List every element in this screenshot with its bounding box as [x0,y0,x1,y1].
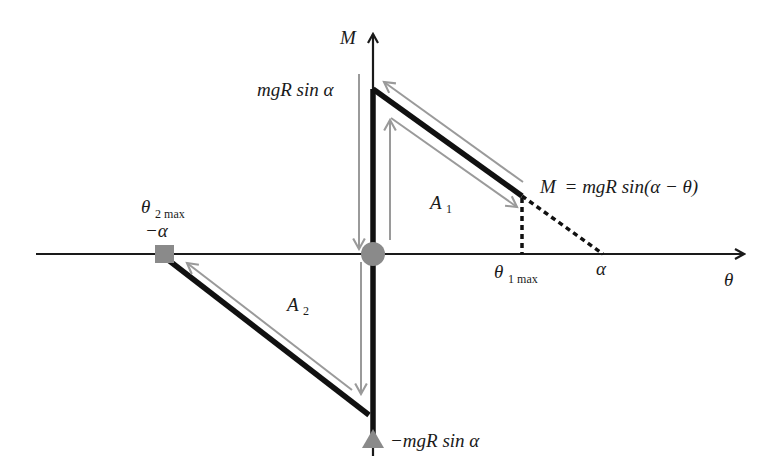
equation-rhs: = mgR sin(α − θ) [565,176,699,198]
theta2max-symbol: θ [141,196,150,217]
area1-subscript: 1 [446,202,452,216]
moment-curve-extension [522,196,603,254]
theta2max-subscript: 2 max [155,207,185,221]
theta1max-symbol: θ [494,261,503,282]
area1-label: A 1 [428,192,452,216]
theta2max-label: θ 2 max [141,196,185,221]
area1-symbol: A [428,192,442,213]
theta-axis-label: θ [724,269,733,290]
theta1max-label: θ 1 max [494,261,538,286]
bottom-value-label: −mgR sin α [390,430,480,451]
area2-symbol: A [285,294,299,315]
neg-alpha-tick-label: −α [145,220,169,241]
arrow-upper-slope [384,82,523,182]
alpha-tick-label: α [596,258,607,279]
moment-curve-negative [167,259,369,415]
arrow-slope-q3 [187,263,352,390]
moment-curve-positive [373,89,522,196]
moment-angle-diagram: M θ mgR sin α −mgR sin α M = mgR sin(α −… [0,0,772,472]
m-axis-label: M [339,27,357,48]
min-moment-triangle-marker [362,429,384,448]
area2-label: A 2 [285,294,309,318]
equation-lhs: M [539,176,557,197]
equation-label: M = mgR sin(α − θ) [539,176,698,198]
origin-circle-marker [361,242,385,266]
area2-subscript: 2 [303,304,309,318]
top-value-label: mgR sin α [257,79,335,100]
theta2max-square-marker [155,245,174,263]
theta1max-subscript: 1 max [508,272,538,286]
